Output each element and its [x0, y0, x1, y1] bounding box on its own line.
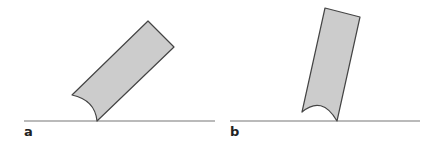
panel-b-label: b: [230, 124, 239, 139]
diagram-canvas: [0, 0, 438, 142]
panel-a: [24, 21, 215, 121]
panel-b: [230, 8, 420, 121]
panel-b-block: [302, 8, 360, 121]
panel-a-block: [72, 21, 174, 121]
panel-a-label: a: [24, 124, 33, 139]
